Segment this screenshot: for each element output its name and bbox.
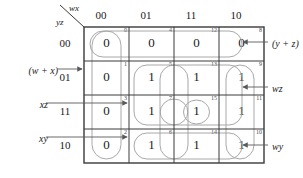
cell-index: 2 — [124, 129, 127, 135]
cell-index: 6 — [169, 129, 172, 135]
cell-value: 0 — [174, 36, 219, 49]
cell-index: 11 — [256, 95, 262, 101]
group-label-yz-sum: (y + z) — [272, 39, 299, 49]
kmap-cell[interactable]: 6 1 — [129, 129, 174, 163]
cell-value: 1 — [129, 104, 174, 117]
kmap-cell[interactable]: 12 0 — [174, 27, 219, 61]
cell-value: 1 — [129, 138, 174, 151]
cell-value: 0 — [84, 36, 129, 49]
group-label-wy: wy — [272, 142, 283, 152]
cell-index: 14 — [211, 129, 217, 135]
cell-index: 7 — [169, 95, 172, 101]
kmap-cell[interactable]: 9 1 — [219, 61, 264, 95]
column-header-2: 11 — [174, 10, 208, 21]
cell-index: 15 — [211, 95, 217, 101]
cell-value: 1 — [219, 138, 264, 151]
cell-value: 0 — [84, 70, 129, 83]
cell-index: 3 — [124, 95, 127, 101]
cell-value: 0 — [219, 36, 264, 49]
cell-value: 1 — [219, 104, 264, 117]
column-header-1: 01 — [129, 10, 163, 21]
group-label-xz: xz — [10, 100, 48, 110]
kmap-cell[interactable]: 3 0 — [84, 95, 129, 129]
cell-index: 9 — [259, 61, 262, 67]
kmap-cell[interactable]: 13 1 — [174, 61, 219, 95]
row-header-3: 10 — [52, 140, 78, 151]
row-variable-label: yz — [56, 18, 64, 27]
cell-value: 0 — [84, 138, 129, 151]
cell-value: 1 — [174, 138, 219, 151]
kmap-cell[interactable]: 0 0 — [84, 27, 129, 61]
kmap-cell[interactable]: 2 0 — [84, 129, 129, 163]
column-header-0: 00 — [84, 10, 118, 21]
cell-index: 4 — [169, 27, 172, 33]
cell-index: 12 — [211, 27, 217, 33]
kmap-cell[interactable]: 11 1 — [219, 95, 264, 129]
row-header-2: 11 — [52, 106, 78, 117]
cell-index: 0 — [124, 27, 127, 33]
cell-index: 1 — [124, 61, 127, 67]
group-label-wx-sum: (w + x) — [10, 66, 58, 76]
cell-value: 1 — [174, 70, 219, 83]
column-variable-label: wx — [69, 4, 79, 13]
cell-index: 10 — [256, 129, 262, 135]
karnaugh-map-diagram: wx yz 00 01 11 10 00 01 11 10 0 0 4 0 12… — [0, 0, 303, 178]
kmap-cell[interactable]: 14 1 — [174, 129, 219, 163]
group-label-xy: xy — [10, 134, 48, 144]
cell-value: 0 — [129, 36, 174, 49]
cell-value: 1 — [174, 104, 219, 117]
kmap-cell[interactable]: 1 0 — [84, 61, 129, 95]
cell-index: 5 — [169, 61, 172, 67]
kmap-cell[interactable]: 10 1 — [219, 129, 264, 163]
row-header-0: 00 — [52, 38, 78, 49]
cell-value: 1 — [129, 70, 174, 83]
cell-value: 0 — [84, 104, 129, 117]
kmap-cell[interactable]: 8 0 — [219, 27, 264, 61]
kmap-cell[interactable]: 5 1 — [129, 61, 174, 95]
kmap-cell[interactable]: 4 0 — [129, 27, 174, 61]
cell-index: 13 — [211, 61, 217, 67]
cell-index: 8 — [259, 27, 262, 33]
kmap-cell[interactable]: 15 1 — [174, 95, 219, 129]
group-label-wz: wz — [272, 84, 283, 94]
cell-value: 1 — [219, 70, 264, 83]
kmap-cell[interactable]: 7 1 — [129, 95, 174, 129]
column-header-3: 10 — [219, 10, 253, 21]
